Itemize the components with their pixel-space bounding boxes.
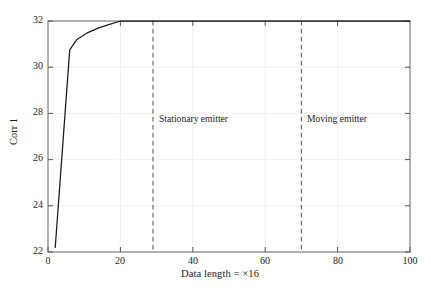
- xtick-label-60: 60: [248, 255, 282, 266]
- xtick-label-100: 100: [393, 255, 427, 266]
- y-axis-title-wrap: Corr 1: [0, 0, 24, 292]
- plot-background: [48, 21, 410, 252]
- chart-plot-area: [0, 0, 440, 292]
- xtick-label-20: 20: [103, 255, 137, 266]
- annotation-stationary-emitter: Stationary emitter: [159, 113, 228, 124]
- xtick-label-80: 80: [321, 255, 355, 266]
- chart-figure: 32 30 28 26 24 22 0 20 40 60 80 100 Stat…: [0, 0, 440, 292]
- x-axis-title: Data length = ×16: [0, 268, 440, 279]
- xtick-label-40: 40: [176, 255, 210, 266]
- xtick-label-0: 0: [31, 255, 65, 266]
- y-axis-title: Corr 1: [8, 97, 19, 167]
- annotation-moving-emitter: Moving emitter: [307, 113, 367, 124]
